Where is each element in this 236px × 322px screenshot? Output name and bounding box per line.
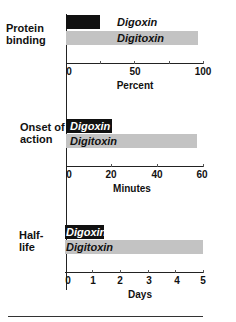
tick bbox=[175, 270, 176, 273]
tick-label: 0 bbox=[65, 275, 71, 286]
tick-label: 2 bbox=[117, 275, 123, 286]
x-axis-label-minutes: Minutes bbox=[113, 183, 151, 194]
tick-label: 5 bbox=[200, 275, 206, 286]
tick bbox=[203, 164, 204, 167]
tick-label: 0 bbox=[66, 169, 72, 180]
tick-label: 20 bbox=[105, 169, 116, 180]
panel-protein-binding-label: Protein binding bbox=[6, 22, 46, 46]
panel-half-life-label: Half- life bbox=[19, 229, 43, 253]
bar-protein-digoxin bbox=[66, 15, 100, 29]
bar-label-halflife-digoxin: Digoxin bbox=[66, 225, 106, 239]
tick-label: 3 bbox=[146, 275, 152, 286]
tick-label: 100 bbox=[195, 66, 212, 77]
x-axis-halflife bbox=[65, 272, 204, 273]
tick-label: 40 bbox=[151, 169, 162, 180]
tick bbox=[169, 61, 170, 64]
tick-label: 60 bbox=[196, 169, 207, 180]
tick bbox=[120, 270, 121, 273]
bottom-rule bbox=[8, 316, 203, 317]
x-axis-label-percent: Percent bbox=[117, 80, 154, 91]
bar-label-halflife-digitoxin: Digitoxin bbox=[66, 240, 113, 254]
tick bbox=[134, 61, 135, 64]
bar-label-onset-digoxin: Digoxin bbox=[70, 119, 110, 133]
x-axis-label-days: Days bbox=[128, 289, 152, 300]
tick bbox=[148, 270, 149, 273]
bar-label-protein-digoxin: Digoxin bbox=[117, 15, 157, 29]
tick bbox=[100, 61, 101, 64]
tick bbox=[157, 164, 158, 167]
tick bbox=[92, 270, 93, 273]
tick bbox=[203, 270, 204, 273]
tick bbox=[203, 61, 204, 64]
bar-label-onset-digitoxin: Digitoxin bbox=[70, 134, 117, 148]
tick-label: 0 bbox=[66, 66, 72, 77]
x-axis-protein bbox=[66, 63, 204, 64]
tick bbox=[111, 164, 112, 167]
x-axis-onset bbox=[66, 166, 204, 167]
tick-label: 50 bbox=[129, 66, 140, 77]
bar-label-protein-digitoxin: Digitoxin bbox=[117, 31, 164, 45]
tick-label: 1 bbox=[90, 275, 96, 286]
panel-onset-label: Onset of action bbox=[20, 121, 65, 145]
tick-label: 4 bbox=[174, 275, 180, 286]
